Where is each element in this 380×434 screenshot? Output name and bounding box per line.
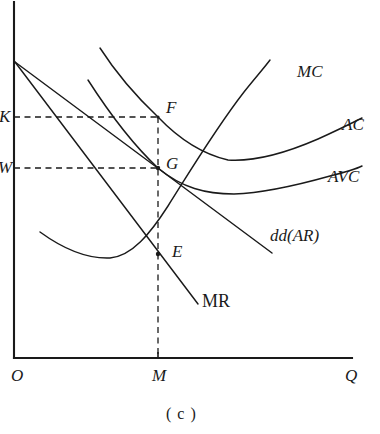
point-label-E: E	[172, 243, 182, 260]
axis-label-origin: O	[11, 367, 23, 384]
curve-dd-ar	[15, 62, 272, 253]
curve-label-dd-ar: dd(AR)	[270, 227, 319, 244]
axes-group	[14, 2, 352, 358]
point-marker-E	[156, 252, 160, 256]
economics-diagram-canvas	[0, 0, 380, 434]
figure-container: K W F G E MC AC AVC dd(AR) MR O M Q ( c …	[0, 0, 380, 434]
figure-caption: ( c )	[166, 406, 197, 422]
curve-label-ac: AC	[342, 116, 364, 133]
curve-label-mr: MR	[202, 292, 230, 310]
guide-lines-group	[14, 117, 158, 358]
curve-label-mc: MC	[297, 63, 323, 80]
price-label-W: W	[0, 159, 12, 176]
price-label-K: K	[0, 108, 10, 125]
point-label-F: F	[166, 99, 176, 116]
curve-label-avc: AVC	[328, 168, 359, 185]
curve-mc	[40, 60, 270, 258]
axis-tick-label-M: M	[152, 367, 166, 384]
point-label-G: G	[166, 155, 178, 172]
axis-label-quantity: Q	[345, 367, 357, 384]
point-marker-G	[156, 166, 160, 170]
point-marker-F	[156, 115, 159, 118]
curves-group	[15, 48, 362, 304]
